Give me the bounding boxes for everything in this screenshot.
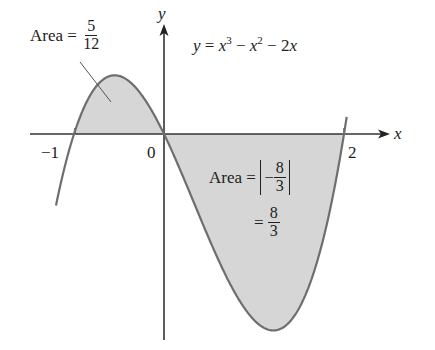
area-right-result: = 83 — [254, 205, 280, 240]
equation-label: y = x3 − x2 − 2x — [193, 35, 297, 54]
area-left-fraction: 512 — [81, 18, 101, 53]
x-axis-label: x — [394, 125, 402, 142]
area-right-abs-numerator: 8 — [274, 160, 286, 178]
eq-term3: x — [289, 36, 297, 55]
eq-op2: − 2 — [263, 36, 290, 55]
eq-lhs: y — [193, 36, 201, 55]
area-right-sign: − — [264, 169, 274, 186]
tick-label-2: 2 — [348, 144, 357, 161]
area-left-denominator: 12 — [81, 36, 101, 53]
area-left-numerator: 5 — [85, 18, 97, 36]
tick-label-neg1: −1 — [41, 144, 59, 161]
area-right-prefix: Area = — [209, 168, 260, 187]
tick-label-0: 0 — [147, 144, 156, 161]
area-right-second-prefix: = — [254, 213, 268, 232]
area-right-fraction: 83 — [268, 205, 280, 240]
shaded-region-left — [74, 75, 164, 134]
area-right-denominator: 3 — [268, 223, 280, 240]
eq-equals: = — [201, 36, 219, 55]
area-right-numerator: 8 — [268, 205, 280, 223]
area-right-abs-denominator: 3 — [274, 178, 286, 195]
area-left-prefix: Area = — [30, 26, 81, 45]
area-right-label: Area = −83 — [209, 160, 290, 195]
eq-op1: − — [232, 36, 250, 55]
y-axis-label: y — [158, 5, 166, 22]
area-right-abs-fraction: 83 — [274, 160, 286, 195]
area-left-label: Area = 512 — [30, 18, 101, 53]
abs-value-bars: −83 — [260, 160, 290, 195]
